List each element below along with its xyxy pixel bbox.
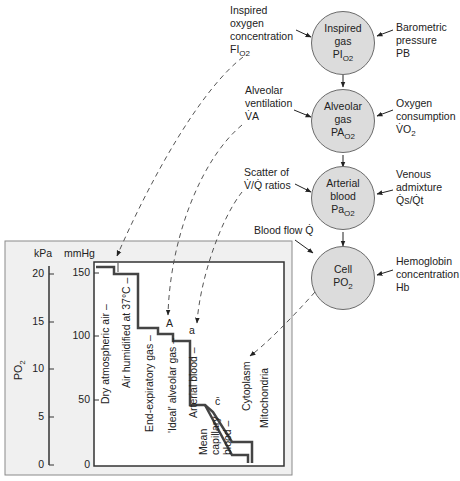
- stage-arterial-blood: Arterial blood –: [187, 347, 199, 418]
- marker-alveolar: A: [166, 317, 173, 330]
- kpa-tick: 15: [20, 315, 44, 327]
- stage-mitochondria: Mitochondria: [258, 368, 270, 428]
- stage-mean-capillary-2: capillary: [209, 416, 221, 455]
- node-cell: Cell PO2: [311, 246, 375, 310]
- stage-humidified-air: Air humidified at 37°C –: [120, 278, 132, 388]
- factor-alveolar-ventilation: Alveolar ventilation V̇A: [245, 84, 292, 123]
- factor-blood-flow: Blood flow Q̇: [254, 224, 314, 237]
- mmhg-tick: 100: [66, 329, 90, 341]
- kpa-tick: 20: [20, 267, 44, 279]
- factor-barometric-pressure: Barometric pressure PB: [396, 21, 447, 60]
- y-axis-label: PO2: [12, 360, 29, 380]
- factor-inspired-oxygen: Inspired oxygen concentration FIO2: [230, 4, 293, 60]
- factor-venous-admixture: Venous admixture Q̇s/Q̇t: [396, 168, 442, 207]
- kpa-tick: 5: [20, 410, 44, 422]
- kpa-unit-label: kPa: [34, 247, 52, 260]
- stage-end-expiratory: End-expiratory gas –: [143, 335, 155, 432]
- marker-arterial: a: [189, 324, 195, 337]
- factor-vq-scatter: Scatter of V̇/Q̇ ratios: [244, 166, 291, 192]
- factor-hemoglobin: Hemoglobin concentration Hb: [396, 255, 459, 294]
- mmhg-tick: 0: [66, 458, 90, 470]
- stage-dry-air: Dry atmospheric air –: [99, 304, 111, 404]
- marker-capillary: c̄: [215, 395, 220, 408]
- node-alveolar-gas: Alveolar gas PAO2: [311, 89, 375, 153]
- mmhg-tick: 50: [66, 393, 90, 405]
- node-inspired-gas: Inspired gas PIO2: [311, 11, 375, 75]
- stage-mean-capillary-1: Mean: [197, 429, 209, 455]
- kpa-tick: 0: [20, 458, 44, 470]
- stage-cytoplasm: Cytoplasm: [240, 361, 252, 411]
- factor-oxygen-consumption: Oxygen consumption V̇O2: [396, 97, 456, 140]
- mmhg-tick: 150: [66, 266, 90, 278]
- stage-mean-capillary-3: blood –: [221, 421, 233, 455]
- stage-ideal-alveolar: 'Ideal' alveolar gas –: [166, 338, 178, 433]
- mmhg-unit-label: mmHg: [64, 247, 95, 260]
- diagram-canvas: [0, 0, 460, 481]
- node-arterial-blood: Arterial blood PaO2: [311, 166, 375, 230]
